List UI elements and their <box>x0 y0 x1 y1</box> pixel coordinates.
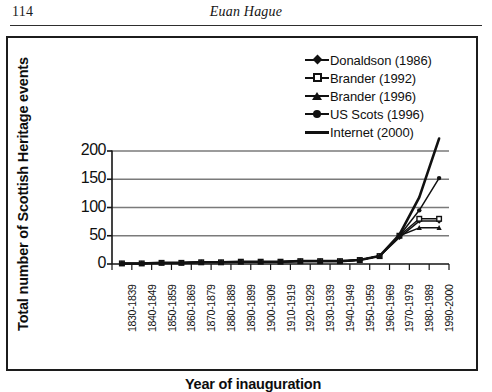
running-head: Euan Hague <box>0 4 492 20</box>
legend-marker-open-square-icon <box>304 71 330 85</box>
legend-item-3: Brander (1996) <box>304 87 480 105</box>
x-tick-1880-1889: 1880-1889 <box>225 284 237 332</box>
x-tick-1900-1909: 1900-1909 <box>265 284 277 332</box>
point-2-15 <box>417 217 422 222</box>
legend-item-2: Brander (1992) <box>304 69 480 87</box>
header-rule <box>10 25 482 26</box>
legend-item-1: Donaldson (1986) <box>304 51 480 69</box>
x-axis-title: Year of inauguration <box>98 376 408 392</box>
legend-label: Brander (1992) <box>330 71 416 86</box>
y-tick-100: 100 <box>54 198 106 216</box>
series-line-5 <box>122 139 439 264</box>
point-4-16 <box>437 176 441 180</box>
x-tick-1920-1929: 1920-1929 <box>304 284 316 332</box>
x-tick-1840-1849: 1840-1849 <box>146 284 158 332</box>
x-tick-1990-2000: 1990-2000 <box>443 284 455 332</box>
x-tick-1830-1839: 1830-1839 <box>126 284 138 332</box>
x-tick-1970-1979: 1970-1979 <box>403 284 415 332</box>
legend-item-5: Internet (2000) <box>304 123 480 141</box>
legend-label: Brander (1996) <box>330 89 416 104</box>
x-tick-1850-1859: 1850-1859 <box>166 284 178 332</box>
legend-marker-triangle-icon <box>304 89 330 103</box>
x-tick-1910-1919: 1910-1919 <box>285 284 297 332</box>
legend-label: Donaldson (1986) <box>330 53 432 68</box>
legend-marker-none-icon <box>304 125 330 139</box>
x-tick-1950-1959: 1950-1959 <box>364 284 376 332</box>
x-tick-1960-1969: 1960-1969 <box>384 284 396 332</box>
x-tick-1870-1879: 1870-1879 <box>205 284 217 332</box>
x-tick-1860-1869: 1860-1869 <box>185 284 197 332</box>
legend-marker-circle-icon <box>304 107 330 121</box>
chart-legend: Donaldson (1986)Brander (1992)Brander (1… <box>304 51 480 141</box>
series-line-2 <box>122 219 439 264</box>
x-tick-1930-1939: 1930-1939 <box>324 284 336 332</box>
figure-frame: Donaldson (1986)Brander (1992)Brander (1… <box>6 36 478 371</box>
legend-item-4: US Scots (1996) <box>304 105 480 123</box>
y-tick-50: 50 <box>54 226 106 244</box>
plot-area <box>112 151 449 264</box>
y-tick-200: 200 <box>54 141 106 159</box>
y-axis-title: Total number of Scottish Heritage events <box>15 29 31 359</box>
legend-label: US Scots (1996) <box>330 107 424 122</box>
legend-marker-diamond-icon <box>304 53 330 67</box>
legend-label: Internet (2000) <box>330 125 414 140</box>
plot-svg <box>112 151 451 266</box>
x-tick-1980-1989: 1980-1989 <box>423 284 435 332</box>
x-tick-1940-1949: 1940-1949 <box>344 284 356 332</box>
page-header: 114 Euan Hague <box>0 0 492 34</box>
series-line-4 <box>122 178 439 263</box>
x-tick-1890-1899: 1890-1899 <box>245 284 257 332</box>
point-4-15 <box>417 208 421 212</box>
point-2-16 <box>437 217 442 222</box>
y-tick-150: 150 <box>54 169 106 187</box>
y-tick-0: 0 <box>54 254 106 272</box>
